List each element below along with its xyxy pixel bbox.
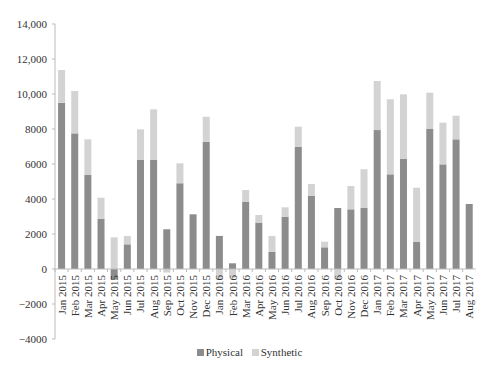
legend-label: Synthetic (261, 346, 303, 358)
bar-physical (347, 209, 354, 269)
bar-synthetic (242, 190, 249, 202)
bar-synthetic (413, 188, 420, 242)
x-tick-label: Jun 2015 (121, 275, 133, 316)
x-tick-label: Aug 2015 (148, 275, 160, 319)
x-tick-label: Jan 2016 (213, 275, 225, 315)
bar-physical (334, 208, 341, 269)
bar-physical (71, 133, 78, 269)
bar-physical (374, 130, 381, 269)
bar-physical (229, 263, 236, 269)
y-tick-label: 4000 (25, 193, 48, 205)
bar-synthetic (176, 163, 183, 183)
bar-synthetic (321, 242, 328, 248)
x-tick-label: Jan 2015 (56, 275, 68, 315)
x-tick-label: Dec 2016 (358, 275, 370, 318)
bar-physical (84, 175, 91, 269)
bar-physical (426, 129, 433, 269)
bar-physical (124, 244, 131, 269)
bar-synthetic (163, 269, 170, 273)
x-tick-label: Apr 2016 (253, 275, 265, 317)
x-tick-label: Jul 2015 (134, 275, 146, 313)
x-tick-label: Apr 2017 (411, 275, 423, 317)
x-tick-label: Jan 2017 (371, 275, 383, 315)
bar-physical (242, 202, 249, 269)
x-tick-label: Apr 2015 (95, 275, 107, 317)
bar-physical (413, 242, 420, 269)
x-tick-label: Feb 2015 (69, 275, 81, 317)
bar-physical (190, 214, 197, 269)
bar-synthetic (255, 215, 262, 223)
y-tick-label: 10,000 (17, 88, 48, 100)
bar-synthetic (308, 184, 315, 196)
legend-label: Physical (206, 346, 243, 358)
x-tick-label: Nov 2016 (345, 275, 357, 319)
y-tick-label: 8000 (25, 123, 48, 135)
x-tick-label: Feb 2017 (384, 275, 396, 317)
synthetic-swatch-icon (252, 349, 259, 356)
bar-synthetic (150, 109, 157, 159)
x-tick-label: Oct 2016 (332, 275, 344, 316)
bar-synthetic (137, 129, 144, 159)
bar-synthetic (453, 116, 460, 140)
bar-physical (308, 196, 315, 269)
bar-synthetic (400, 94, 407, 159)
x-tick-label: Oct 2015 (174, 275, 186, 316)
physical-swatch-icon (197, 349, 204, 356)
x-tick-label: Mar 2017 (397, 275, 409, 319)
legend-item-physical: Physical (197, 346, 243, 358)
x-tick-label: Dec 2015 (200, 275, 212, 318)
bar-synthetic (58, 70, 65, 103)
bar-synthetic (282, 207, 289, 216)
bar-physical (400, 159, 407, 269)
bar-physical (268, 252, 275, 269)
x-tick-label: Sep 2015 (161, 275, 173, 317)
bar-physical (439, 164, 446, 269)
bar-physical (282, 217, 289, 269)
bar-physical (466, 204, 473, 269)
bar-physical (453, 139, 460, 269)
bar-synthetic (268, 236, 275, 252)
bar-physical (137, 160, 144, 269)
legend-item-synthetic: Synthetic (252, 346, 303, 358)
bar-physical (150, 160, 157, 269)
x-tick-label: Jul 2016 (292, 275, 304, 313)
bar-synthetic (361, 169, 368, 208)
bar-synthetic (347, 186, 354, 209)
x-tick-label: Sep 2016 (319, 275, 331, 317)
bar-physical (203, 142, 210, 269)
x-tick-label: May 2016 (266, 275, 278, 320)
bar-synthetic (124, 236, 131, 244)
bar-physical (98, 219, 105, 269)
x-tick-label: Feb 2016 (227, 275, 239, 317)
bar-physical (361, 208, 368, 269)
y-tick-label: −2000 (19, 298, 48, 310)
bar-synthetic (439, 123, 446, 165)
bar-synthetic (295, 127, 302, 147)
y-tick-label: 6000 (25, 158, 48, 170)
x-tick-label: Jun 2016 (279, 275, 291, 316)
y-tick-label: 12,000 (17, 53, 48, 65)
bar-physical (387, 174, 394, 269)
x-tick-label: Mar 2015 (82, 275, 94, 319)
bar-synthetic (111, 237, 118, 269)
stacked-bar-chart: −4000−20000200040006000800010,00012,0001… (0, 0, 499, 377)
bar-synthetic (387, 99, 394, 174)
bar-physical (321, 247, 328, 269)
x-tick-label: Aug 2016 (305, 275, 317, 319)
y-tick-label: 0 (42, 263, 48, 275)
y-tick-label: 2000 (25, 228, 48, 240)
bar-physical (255, 223, 262, 269)
y-tick-label: −4000 (19, 333, 48, 345)
bar-physical (216, 236, 223, 269)
x-axis: Jan 2015Feb 2015Mar 2015Apr 2015May 2015… (55, 269, 476, 320)
x-tick-label: Jun 2017 (437, 275, 449, 316)
x-tick-label: Mar 2016 (240, 275, 252, 319)
y-axis: −4000−20000200040006000800010,00012,0001… (17, 18, 55, 345)
x-tick-label: May 2017 (424, 275, 436, 320)
bar-physical (295, 147, 302, 269)
x-tick-label: Jul 2017 (450, 275, 462, 313)
bar-synthetic (203, 117, 210, 142)
bar-physical (163, 229, 170, 269)
bar-synthetic (98, 198, 105, 219)
y-tick-label: 14,000 (17, 18, 48, 30)
